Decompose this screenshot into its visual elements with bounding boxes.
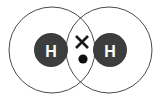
diagram-background (0, 0, 160, 101)
electron-dot-icon (78, 54, 87, 63)
diagram-canvas: H H (0, 0, 160, 101)
h2-dot-and-cross-diagram: H H (0, 0, 160, 101)
left-hydrogen-symbol: H (45, 43, 57, 60)
right-hydrogen-symbol: H (104, 43, 116, 60)
